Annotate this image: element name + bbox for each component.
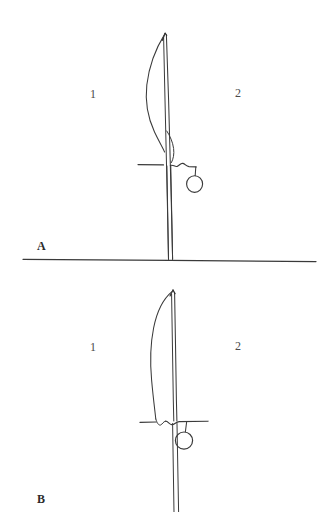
figure-a-cross-guard-right: [170, 163, 196, 167]
figure-b-suspension-ring: [175, 432, 192, 449]
figure-b-edge-notch: [156, 419, 166, 425]
figure-b-ring-hanger: [185, 422, 186, 431]
figure-a-part-label-1: 1: [90, 87, 96, 102]
figure-a-ring-hanger: [195, 167, 196, 176]
panel-divider-line: [23, 259, 316, 261]
figure-b-blade-back-inner: [172, 294, 174, 421]
drawing-plate: A B 1 2 1 2: [0, 0, 335, 512]
figure-b-part-label-1: 1: [90, 340, 96, 355]
plate-illustration: [0, 0, 335, 512]
figure-b-blade-back-outer: [175, 293, 177, 421]
figure-a-cutting-edge: [146, 34, 165, 152]
figure-b-part-label-2: 2: [235, 339, 241, 354]
figure-a-suspension-ring: [187, 176, 203, 193]
figure-label-a: A: [37, 239, 46, 254]
figure-b-grip-right: [177, 424, 179, 512]
figure-a-part-label-2: 2: [235, 86, 241, 101]
figure-b-grip-left: [173, 424, 174, 512]
figure-a-drawing: [138, 33, 203, 259]
figure-label-b: B: [37, 492, 46, 507]
figure-b-drawing: [140, 290, 208, 512]
figure-b-cutting-edge: [151, 292, 172, 419]
